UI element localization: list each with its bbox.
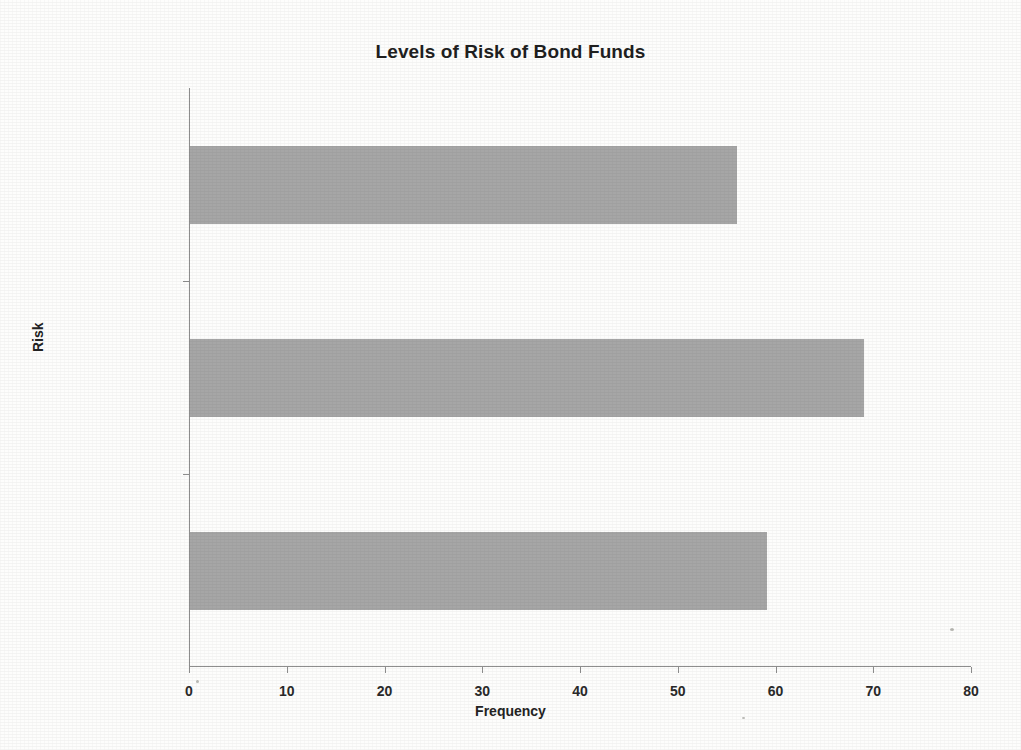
x-axis-tick-label: 30 <box>452 683 512 699</box>
y-axis-tick <box>183 281 189 282</box>
x-axis-tick-label: 40 <box>550 683 610 699</box>
chart-title: Levels of Risk of Bond Funds <box>0 41 1021 63</box>
bar <box>190 532 767 610</box>
x-axis-tick <box>873 667 874 673</box>
y-axis-title: Risk <box>30 322 46 352</box>
x-axis-tick-label: 50 <box>648 683 708 699</box>
x-axis-tick-label: 10 <box>257 683 317 699</box>
x-axis-tick-label: 80 <box>941 683 1001 699</box>
x-axis-tick-label: 60 <box>746 683 806 699</box>
x-axis-tick <box>482 667 483 673</box>
x-axis-tick <box>971 667 972 673</box>
x-axis-title: Frequency <box>0 703 1021 719</box>
chart-page: Levels of Risk of Bond Funds 01020304050… <box>0 0 1021 750</box>
bar <box>190 339 864 417</box>
bar <box>190 146 737 224</box>
x-axis-tick <box>287 667 288 673</box>
x-axis-tick <box>776 667 777 673</box>
y-axis-tick <box>183 474 189 475</box>
x-axis-tick <box>385 667 386 673</box>
plot-area: 01020304050607080 Below averageAverageAb… <box>189 88 971 667</box>
x-axis-tick-label: 0 <box>159 683 219 699</box>
x-axis-tick-label: 20 <box>355 683 415 699</box>
x-axis-tick <box>189 667 190 673</box>
x-axis-tick <box>580 667 581 673</box>
x-axis-tick-label: 70 <box>843 683 903 699</box>
x-axis-tick <box>678 667 679 673</box>
